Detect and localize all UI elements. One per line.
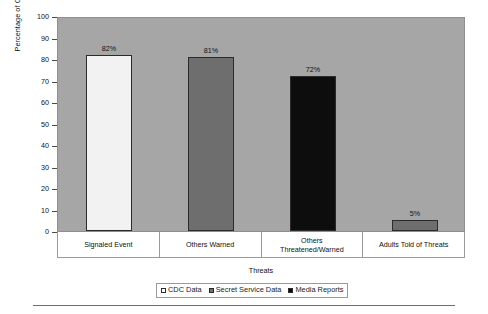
y-tick-label: 50 (41, 121, 49, 129)
chart-legend: CDC DataSecret Service DataMedia Reports (156, 283, 348, 298)
bar-value-label: 72% (290, 65, 336, 74)
legend-label: Secret Service Data (216, 285, 282, 295)
legend-item: Secret Service Data (209, 285, 282, 295)
legend-item: Media Reports (288, 285, 343, 295)
category-label: Others Warned (160, 232, 262, 257)
category-label: OthersThreatened/Warned (262, 232, 364, 257)
bar (86, 55, 132, 231)
category-label: Adults Told of Threats (363, 232, 464, 257)
category-label: Signaled Event (58, 232, 160, 257)
bar-value-label: 82% (86, 44, 132, 53)
y-tick-label: 100 (37, 13, 49, 21)
bar (290, 76, 336, 231)
legend-item: CDC Data (161, 285, 202, 295)
bar (392, 220, 438, 231)
y-tick-label: 20 (41, 185, 49, 193)
bar (188, 57, 234, 231)
legend-swatch-icon (209, 288, 214, 293)
y-tick-label: 30 (41, 164, 49, 172)
plot-area: 82%81%72%5% (57, 17, 465, 232)
legend-swatch-icon (288, 288, 293, 293)
legend-label: Media Reports (295, 285, 343, 295)
bar-chart-figure: Percentage of Cases 01020304050607080901… (0, 0, 488, 314)
category-label-band: Signaled EventOthers WarnedOthersThreate… (57, 232, 465, 258)
y-axis: 0102030405060708090100 (0, 0, 57, 314)
bottom-divider (33, 305, 455, 306)
legend-label: CDC Data (168, 285, 202, 295)
y-tick-label: 60 (41, 99, 49, 107)
x-axis-title: Threats (57, 266, 465, 276)
bar-value-label: 5% (392, 209, 438, 218)
y-tick-label: 10 (41, 207, 49, 215)
y-tick-label: 80 (41, 56, 49, 64)
y-tick-label: 40 (41, 142, 49, 150)
y-tick-label: 90 (41, 35, 49, 43)
y-tick-label: 0 (45, 228, 49, 236)
legend-swatch-icon (161, 288, 166, 293)
bar-value-label: 81% (188, 46, 234, 55)
y-tick-label: 70 (41, 78, 49, 86)
